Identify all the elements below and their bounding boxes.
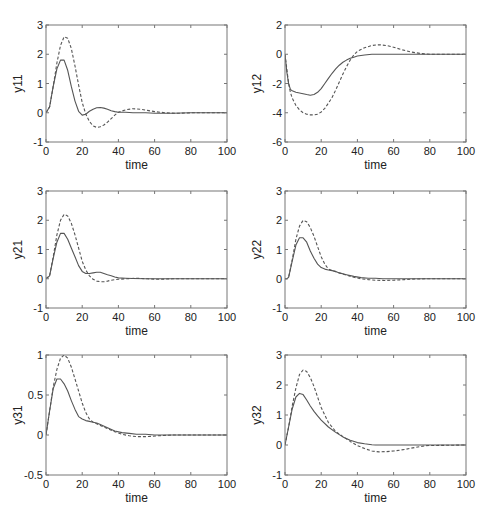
x-tick-label: 60 xyxy=(148,478,160,490)
x-tick-label: 100 xyxy=(457,478,475,490)
series-solid xyxy=(285,393,466,445)
y-tick-label: 2 xyxy=(276,214,282,226)
y-tick-label: 0 xyxy=(276,439,282,451)
y-tick-label: 3 xyxy=(37,185,43,197)
x-tick-label: 60 xyxy=(387,145,399,157)
x-tick-label: 0 xyxy=(282,478,288,490)
series-solid xyxy=(285,238,466,279)
subplot-y22: 020406080100-10123timey22 xyxy=(250,185,475,338)
y-tick-label: -1 xyxy=(33,136,43,148)
y-tick-label: 0.5 xyxy=(28,389,43,401)
x-tick-label: 100 xyxy=(218,145,236,157)
x-tick-label: 100 xyxy=(218,311,236,323)
series-solid xyxy=(46,379,227,435)
x-tick-label: 80 xyxy=(424,311,436,323)
x-tick-label: 40 xyxy=(351,311,363,323)
y-axis-label: y21 xyxy=(11,240,25,260)
figure: 020406080100-10123timey11020406080100-6-… xyxy=(0,0,490,518)
x-tick-label: 40 xyxy=(112,478,124,490)
x-tick-label: 40 xyxy=(112,145,124,157)
x-tick-label: 40 xyxy=(112,311,124,323)
y-tick-label: -4 xyxy=(272,107,282,119)
x-tick-label: 80 xyxy=(424,478,436,490)
y-tick-label: 2 xyxy=(276,379,282,391)
series-solid xyxy=(46,233,227,278)
x-tick-label: 0 xyxy=(43,311,49,323)
x-tick-label: 60 xyxy=(148,145,160,157)
y-tick-label: 1 xyxy=(37,349,43,361)
x-tick-label: 80 xyxy=(424,145,436,157)
x-axis-label: time xyxy=(125,491,148,505)
y-tick-label: 1 xyxy=(276,409,282,421)
y-axis-label: y32 xyxy=(250,405,264,425)
x-tick-label: 0 xyxy=(282,311,288,323)
subplot-y11: 020406080100-10123timey11 xyxy=(11,19,236,172)
axes-box xyxy=(285,191,466,308)
series-dashed xyxy=(46,214,227,281)
y-tick-label: -0.5 xyxy=(24,469,43,481)
x-tick-label: 20 xyxy=(315,145,327,157)
y-tick-label: -1 xyxy=(272,469,282,481)
y-tick-label: 1 xyxy=(37,78,43,90)
x-tick-label: 0 xyxy=(282,145,288,157)
x-tick-label: 60 xyxy=(387,478,399,490)
y-tick-label: 2 xyxy=(37,214,43,226)
subplot-y12: 020406080100-6-4-202timey12 xyxy=(250,19,475,172)
x-tick-label: 20 xyxy=(76,145,88,157)
y-tick-label: 0 xyxy=(37,107,43,119)
y-tick-label: 3 xyxy=(276,349,282,361)
x-tick-label: 20 xyxy=(315,478,327,490)
y-axis-label: y31 xyxy=(11,405,25,425)
x-axis-label: time xyxy=(364,158,387,172)
series-dashed xyxy=(285,220,466,280)
y-tick-label: -1 xyxy=(33,302,43,314)
x-tick-label: 60 xyxy=(148,311,160,323)
x-axis-label: time xyxy=(125,324,148,338)
subplot-y31: 020406080100-0.500.51timey31 xyxy=(11,349,236,505)
y-tick-label: 1 xyxy=(276,244,282,256)
y-axis-label: y22 xyxy=(250,240,264,260)
x-axis-label: time xyxy=(364,491,387,505)
x-tick-label: 20 xyxy=(315,311,327,323)
y-tick-label: 2 xyxy=(37,48,43,60)
series-dashed xyxy=(285,45,466,115)
series-dashed xyxy=(46,355,227,437)
y-tick-label: 1 xyxy=(37,244,43,256)
y-tick-label: 0 xyxy=(276,48,282,60)
x-tick-label: 20 xyxy=(76,311,88,323)
axes-box xyxy=(285,355,466,475)
subplot-y21: 020406080100-10123timey21 xyxy=(11,185,236,338)
axes-box xyxy=(46,25,227,142)
y-axis-label: y11 xyxy=(11,74,25,93)
axes-box xyxy=(46,191,227,308)
series-solid xyxy=(285,54,466,95)
y-tick-label: 3 xyxy=(37,19,43,31)
y-tick-label: 0 xyxy=(37,429,43,441)
axes-box xyxy=(46,355,227,475)
x-axis-label: time xyxy=(125,158,148,172)
x-tick-label: 80 xyxy=(185,478,197,490)
subplot-y32: 020406080100-10123timey32 xyxy=(250,349,475,505)
axes-box xyxy=(285,25,466,142)
x-tick-label: 60 xyxy=(387,311,399,323)
x-tick-label: 100 xyxy=(218,478,236,490)
x-tick-label: 40 xyxy=(351,145,363,157)
y-tick-label: -6 xyxy=(272,136,282,148)
y-tick-label: -2 xyxy=(272,78,282,90)
series-dashed xyxy=(285,370,466,452)
x-tick-label: 100 xyxy=(457,145,475,157)
y-tick-label: 0 xyxy=(276,273,282,285)
y-tick-label: -1 xyxy=(272,302,282,314)
y-axis-label: y12 xyxy=(250,74,264,94)
x-tick-label: 40 xyxy=(351,478,363,490)
x-axis-label: time xyxy=(364,324,387,338)
x-tick-label: 20 xyxy=(76,478,88,490)
series-dashed xyxy=(46,37,227,128)
y-tick-label: 3 xyxy=(276,185,282,197)
x-tick-label: 0 xyxy=(43,145,49,157)
series-solid xyxy=(46,60,227,115)
y-tick-label: 0 xyxy=(37,273,43,285)
y-tick-label: 2 xyxy=(276,19,282,31)
x-tick-label: 80 xyxy=(185,311,197,323)
x-tick-label: 0 xyxy=(43,478,49,490)
